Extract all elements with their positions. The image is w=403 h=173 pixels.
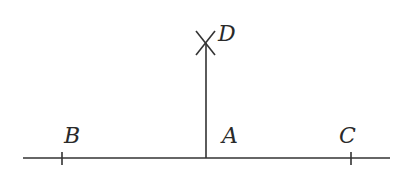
label-c: C [339, 123, 356, 148]
label-a: A [220, 123, 238, 148]
geometry-diagram: D B A C [0, 0, 403, 173]
label-d: D [217, 21, 236, 46]
label-b: B [63, 123, 80, 148]
